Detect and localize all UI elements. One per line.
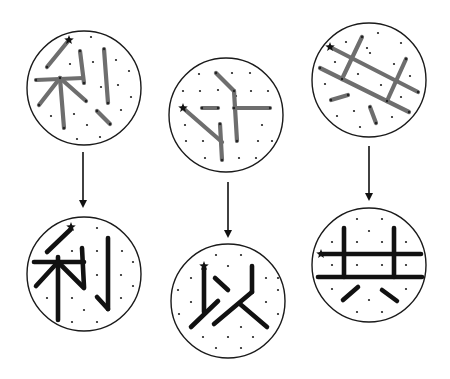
character-stroke bbox=[240, 304, 267, 327]
grid-dot bbox=[177, 289, 179, 291]
grid-dot bbox=[215, 254, 217, 256]
stroke-endpoint bbox=[347, 94, 349, 96]
circle-outline bbox=[312, 208, 426, 322]
grid-dot bbox=[86, 124, 88, 126]
circle-outline bbox=[171, 244, 285, 358]
grid-dot bbox=[204, 157, 206, 159]
grid-dot bbox=[202, 140, 204, 142]
grid-dot bbox=[356, 264, 358, 266]
grid-dot bbox=[257, 140, 259, 142]
stroke-endpoint bbox=[233, 90, 235, 92]
grid-dot bbox=[120, 297, 122, 299]
grid-dot bbox=[182, 90, 184, 92]
grid-dot bbox=[377, 32, 379, 34]
stroke-endpoint bbox=[83, 82, 85, 84]
stroke-endpoint bbox=[369, 106, 371, 108]
panel-corrected-li bbox=[27, 217, 141, 331]
stroke-endpoint bbox=[38, 104, 40, 106]
circle-outline bbox=[312, 23, 426, 137]
character-stroke bbox=[36, 262, 58, 286]
arrow-li bbox=[79, 152, 87, 208]
stroke-endpoint bbox=[35, 79, 37, 81]
diagram-canvas bbox=[0, 0, 450, 379]
grid-dot bbox=[277, 313, 279, 315]
panel-corrected-gong bbox=[312, 208, 426, 322]
stroke-endpoint bbox=[46, 66, 48, 68]
grid-dot bbox=[353, 110, 355, 112]
grid-dot bbox=[381, 264, 383, 266]
grid-dot bbox=[261, 124, 263, 126]
stroke-endpoint bbox=[109, 123, 111, 125]
stroke-endpoint bbox=[405, 58, 407, 60]
grid-dot bbox=[190, 301, 192, 303]
grid-dot bbox=[227, 265, 229, 267]
grid-dot bbox=[83, 309, 85, 311]
stroke-endpoint bbox=[361, 36, 363, 38]
grid-dot bbox=[50, 115, 52, 117]
stroke-endpoint bbox=[63, 127, 65, 129]
arrow-down-icon bbox=[224, 230, 232, 238]
panel-draft-yi bbox=[169, 58, 283, 172]
grid-dot bbox=[356, 218, 358, 220]
grid-dot bbox=[132, 285, 134, 287]
stroke-endpoint bbox=[85, 100, 87, 102]
grid-dot bbox=[324, 83, 326, 85]
stroke-endpoint bbox=[107, 102, 109, 104]
grid-dot bbox=[380, 84, 382, 86]
stroke-endpoint bbox=[201, 107, 203, 109]
character-strokes bbox=[319, 36, 419, 124]
grid-dot bbox=[96, 227, 98, 229]
grid-dot bbox=[121, 250, 123, 252]
grid-dot bbox=[96, 321, 98, 323]
character-stroke bbox=[39, 78, 60, 105]
grid-dot bbox=[366, 47, 368, 49]
grid-dot bbox=[356, 241, 358, 243]
grid-dot bbox=[130, 96, 132, 98]
arrow-gong bbox=[365, 146, 373, 201]
panel-draft-gong bbox=[312, 23, 426, 137]
grid-dot bbox=[393, 63, 395, 65]
stroke-endpoint bbox=[375, 122, 377, 124]
character-strokes bbox=[182, 72, 271, 161]
stroke-endpoint bbox=[341, 78, 343, 80]
start-star-icon bbox=[316, 249, 326, 258]
grid-dot bbox=[277, 277, 279, 279]
character-stroke bbox=[82, 248, 84, 287]
grid-dot bbox=[71, 297, 73, 299]
character-stroke bbox=[47, 40, 69, 67]
character-stroke bbox=[342, 37, 362, 79]
grid-dot bbox=[128, 70, 130, 72]
stroke-endpoint bbox=[386, 100, 388, 102]
panel-corrected-yi bbox=[171, 244, 285, 358]
grid-dot bbox=[400, 96, 402, 98]
grid-dot bbox=[381, 218, 383, 220]
grid-dot bbox=[368, 299, 370, 301]
grid-dot bbox=[250, 90, 252, 92]
character-stroke bbox=[387, 59, 406, 101]
character-correction-diagram bbox=[0, 0, 450, 379]
grid-dot bbox=[368, 230, 370, 232]
grid-dot bbox=[252, 336, 254, 338]
grid-dot bbox=[331, 288, 333, 290]
grid-dot bbox=[267, 90, 269, 92]
grid-dot bbox=[73, 113, 75, 115]
stroke-endpoint bbox=[79, 50, 81, 52]
grid-dot bbox=[391, 116, 393, 118]
character-stroke bbox=[330, 47, 418, 92]
grid-dot bbox=[117, 84, 119, 86]
grid-dot bbox=[202, 336, 204, 338]
character-stroke bbox=[58, 262, 84, 288]
grid-dot bbox=[92, 61, 94, 63]
grid-dot bbox=[265, 277, 267, 279]
grid-dot bbox=[99, 136, 101, 138]
grid-dot bbox=[240, 347, 242, 349]
grid-dot bbox=[185, 140, 187, 142]
grid-dot bbox=[96, 274, 98, 276]
grid-dot bbox=[238, 157, 240, 159]
grid-dots bbox=[177, 254, 279, 349]
panels-layer bbox=[27, 23, 426, 358]
stroke-endpoint bbox=[221, 159, 223, 161]
character-stroke bbox=[104, 49, 108, 103]
character-stroke bbox=[370, 107, 376, 123]
stroke-endpoint bbox=[269, 107, 271, 109]
